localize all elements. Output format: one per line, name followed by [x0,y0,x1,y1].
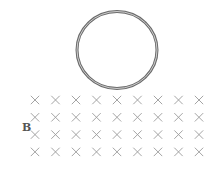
field-cross-icon [51,96,59,104]
ring-inner-gap [77,12,157,89]
field-cross-icon [113,130,121,138]
field-cross-icon [174,148,182,156]
field-cross-icon [113,148,121,156]
field-cross-icon [195,113,203,121]
field-cross-icon [92,130,100,138]
field-cross-icon [174,130,182,138]
field-cross-icon [195,148,203,156]
field-cross-icon [92,113,100,121]
field-cross-icon [31,130,39,138]
field-cross-icon [195,96,203,104]
field-cross-icon [72,113,80,121]
field-cross-icon [174,113,182,121]
magnetic-field-region [31,96,203,156]
field-cross-icon [133,113,141,121]
field-cross-icon [51,130,59,138]
field-cross-icon [133,148,141,156]
field-cross-icon [113,113,121,121]
field-cross-icon [31,96,39,104]
field-cross-icon [92,96,100,104]
field-cross-icon [113,96,121,104]
field-cross-icon [154,96,162,104]
field-cross-icon [92,148,100,156]
field-cross-icon [51,113,59,121]
field-label-b: B [22,121,31,134]
field-cross-icon [31,148,39,156]
field-cross-icon [133,130,141,138]
field-cross-icon [31,113,39,121]
conducting-ring [77,12,157,89]
field-cross-icon [72,130,80,138]
field-cross-icon [133,96,141,104]
field-cross-icon [72,148,80,156]
field-cross-icon [51,148,59,156]
field-cross-icon [154,130,162,138]
field-cross-icon [72,96,80,104]
field-cross-icon [195,130,203,138]
field-cross-icon [154,113,162,121]
field-cross-icon [154,148,162,156]
field-cross-icon [174,96,182,104]
diagram-canvas: B [0,0,212,171]
